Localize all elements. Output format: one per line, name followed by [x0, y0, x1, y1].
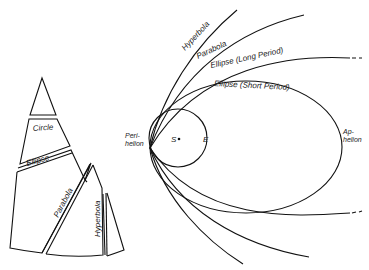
label-earth: E	[203, 135, 209, 144]
ellipse-long-dash-bottom	[352, 211, 362, 213]
label-aphelion-2: helion	[343, 136, 362, 143]
cone-parabola-cut-a	[42, 164, 90, 253]
ellipse-short-period	[150, 81, 342, 213]
label-hyperbola-cone: Hyperbola	[93, 200, 102, 237]
label-ellipse-short: Ellipse (Short Period)	[214, 79, 290, 92]
sun-dot-icon	[178, 138, 181, 141]
cone-figure: Circle Ellipse Parabola Hyperbola	[10, 78, 124, 256]
label-circle: Circle	[33, 123, 55, 133]
cone-hyperbola-cut-b	[106, 193, 107, 256]
label-sun: S	[171, 135, 177, 144]
label-perihelion-1: Peri-	[125, 132, 140, 139]
conic-orbits-diagram: Circle Ellipse Parabola Hyperbola Hyperb…	[0, 0, 369, 270]
cone-hyperbola-section	[107, 193, 124, 256]
cone-tip	[30, 78, 56, 115]
hyperbola-orbit	[150, 10, 243, 264]
cone-ellipse-section	[10, 163, 91, 253]
label-perihelion-2: helion	[125, 140, 144, 147]
cone-parabola-cut-b	[46, 165, 93, 254]
label-ellipse-cone: Ellipse	[25, 153, 51, 168]
label-aphelion-1: Ap-	[342, 128, 355, 136]
orbit-figure: Hyperbola Parabola Ellipse (Long Period)…	[125, 10, 362, 264]
